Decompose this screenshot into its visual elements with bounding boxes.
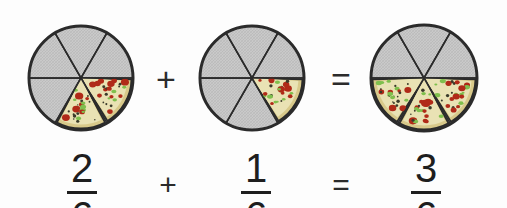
olive-topping [76, 112, 79, 115]
plus-operator-top: + [146, 62, 186, 96]
pepperoni-topping [62, 114, 70, 121]
green-pepper-topping [80, 105, 86, 109]
fraction-numerator: 3 [396, 148, 456, 188]
green-pepper-topping [462, 92, 465, 94]
olive-topping [73, 114, 76, 117]
olive-topping [119, 83, 122, 86]
pepperoni-topping [446, 81, 452, 86]
green-pepper-topping [387, 80, 391, 83]
olive-topping [396, 99, 399, 102]
pepperoni-topping [118, 94, 122, 98]
olive-topping [89, 101, 91, 103]
green-pepper-topping [267, 95, 273, 99]
green-pepper-topping [387, 92, 393, 96]
pepperoni-topping [455, 80, 460, 84]
olive-topping [105, 93, 108, 96]
green-pepper-topping [112, 98, 117, 101]
fraction-sum: 3 6 [396, 148, 456, 208]
pepperoni-topping [269, 78, 275, 83]
olive-topping [418, 105, 420, 107]
green-pepper-topping [122, 86, 126, 89]
pepperoni-topping [109, 95, 113, 99]
pepperoni-topping [270, 102, 274, 105]
pepperoni-topping [453, 93, 460, 99]
pepperoni-topping [107, 86, 112, 90]
olive-topping [428, 106, 431, 109]
olive-topping [68, 110, 70, 112]
olive-topping [94, 119, 96, 121]
pepperoni-topping [263, 92, 268, 96]
pepperoni-topping [107, 109, 113, 114]
green-pepper-topping [421, 92, 425, 95]
olive-topping [102, 85, 105, 88]
pepperoni-topping [424, 120, 428, 124]
green-pepper-topping [274, 101, 278, 104]
olive-topping [392, 101, 394, 103]
olive-topping [451, 92, 453, 94]
green-pepper-topping [277, 88, 281, 90]
olive-topping [73, 118, 75, 120]
pepperoni-topping [89, 81, 96, 87]
pepperoni-topping [404, 87, 411, 93]
equals-operator-bottom: = [321, 170, 361, 200]
olive-topping [398, 91, 401, 94]
green-pepper-topping [434, 83, 437, 85]
pepperoni-topping [451, 107, 457, 112]
pepperoni-topping [97, 94, 102, 98]
pepperoni-topping [459, 95, 464, 99]
olive-topping [441, 100, 443, 102]
green-pepper-topping [275, 81, 280, 85]
olive-topping [77, 104, 78, 105]
olive-topping [118, 86, 120, 88]
olive-topping [407, 83, 409, 85]
green-pepper-topping [428, 93, 431, 95]
olive-topping [412, 119, 415, 122]
green-pepper-topping [290, 92, 294, 95]
olive-topping [394, 85, 396, 87]
olive-topping [105, 103, 107, 105]
green-pepper-topping [404, 99, 408, 102]
olive-topping [280, 100, 282, 102]
pepperoni-topping [424, 114, 429, 118]
pizza-model-first-addend [23, 20, 139, 136]
fraction-denominator: 6 [52, 196, 112, 208]
olive-topping [269, 84, 272, 87]
green-pepper-topping [81, 101, 86, 104]
olive-topping [380, 91, 382, 93]
fraction-pizza-diagram: + = 2 6 + 1 6 = 3 6 [0, 0, 507, 208]
green-pepper-topping [376, 81, 382, 85]
pepperoni-topping [458, 85, 465, 91]
green-pepper-topping [440, 79, 446, 83]
pizza-model-second-addend [194, 20, 310, 136]
pepperoni-topping [121, 79, 129, 86]
olive-topping [446, 94, 449, 97]
fraction-first-addend: 2 6 [52, 148, 112, 208]
green-pepper-topping [76, 117, 81, 121]
pepperoni-topping [107, 81, 114, 87]
pepperoni-topping [75, 92, 83, 99]
olive-topping [286, 80, 289, 83]
olive-topping [421, 89, 425, 93]
fraction-denominator: 6 [396, 196, 456, 208]
equals-operator-top: = [321, 62, 361, 96]
pepperoni-topping [445, 104, 450, 108]
pepperoni-topping [422, 100, 430, 107]
green-pepper-topping [111, 90, 116, 94]
green-pepper-topping [439, 115, 444, 119]
pepperoni-topping [85, 97, 89, 100]
green-pepper-topping [73, 99, 77, 102]
pepperoni-topping [456, 105, 460, 108]
fraction-denominator: 6 [226, 196, 286, 208]
pepperoni-topping [258, 79, 261, 82]
green-pepper-topping [82, 111, 85, 113]
pepperoni-topping [72, 106, 80, 113]
green-pepper-topping [282, 98, 286, 101]
olive-topping [102, 102, 104, 104]
olive-topping [395, 104, 398, 107]
olive-topping [414, 110, 416, 112]
green-pepper-topping [390, 96, 395, 99]
pepperoni-topping [288, 94, 293, 98]
plus-operator-bottom: + [148, 170, 188, 200]
olive-topping [397, 96, 399, 98]
olive-topping [410, 113, 412, 115]
